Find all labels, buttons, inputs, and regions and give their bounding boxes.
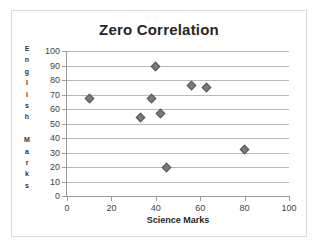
data-point-marker — [202, 82, 212, 92]
y-axis-tick — [62, 95, 67, 96]
y-axis-title-letter: E — [20, 43, 34, 54]
gridline — [67, 182, 289, 183]
y-axis-tick-label: 60 — [50, 104, 60, 114]
y-axis-title: EnglishMarks — [20, 43, 34, 191]
x-axis-tick-label: 100 — [281, 203, 296, 213]
y-axis-tick-label: 20 — [50, 162, 60, 172]
x-axis-tick-label: 0 — [64, 203, 69, 213]
x-axis-tick — [200, 196, 201, 201]
y-axis-tick-label: 70 — [50, 90, 60, 100]
y-axis-tick-label: 0 — [55, 191, 60, 201]
x-axis-tick-label: 40 — [151, 203, 161, 213]
x-axis-tick — [67, 196, 68, 201]
y-axis-title-letter: s — [20, 100, 34, 111]
x-axis-tick — [111, 196, 112, 201]
gridline — [67, 124, 289, 125]
y-axis-tick — [62, 124, 67, 125]
y-axis-tick — [62, 153, 67, 154]
gridline — [67, 153, 289, 154]
x-axis-tick-label: 20 — [106, 203, 116, 213]
gridline — [67, 167, 289, 168]
gridline — [67, 109, 289, 110]
chart-title: Zero Correlation — [12, 21, 306, 38]
gridline — [67, 80, 289, 81]
y-axis-tick — [62, 66, 67, 67]
y-axis-title-letter: l — [20, 77, 34, 88]
x-axis-tick-label: 80 — [240, 203, 250, 213]
y-axis-title-letter: a — [20, 146, 34, 157]
y-axis-title-word-gap — [20, 123, 34, 134]
gridline — [67, 138, 289, 139]
gridline — [67, 51, 289, 52]
y-axis-tick-label: 90 — [50, 61, 60, 71]
plot-frame: 0102030405060708090100020406080100 — [67, 51, 289, 196]
data-point-marker — [186, 81, 196, 91]
data-point-marker — [162, 162, 172, 172]
y-axis-tick-label: 100 — [45, 46, 60, 56]
y-axis-title-letter: M — [20, 134, 34, 145]
x-axis-tick — [245, 196, 246, 201]
data-point-marker — [151, 62, 161, 72]
y-axis-title-letter: i — [20, 89, 34, 100]
y-axis-title-letter: s — [20, 180, 34, 191]
chart-card: Zero Correlation EnglishMarks 0102030405… — [11, 10, 307, 237]
y-axis-title-letter: g — [20, 66, 34, 77]
x-axis-tick-label: 60 — [195, 203, 205, 213]
y-axis-tick-label: 50 — [50, 119, 60, 129]
x-axis-tick — [156, 196, 157, 201]
y-axis-title-letter: h — [20, 111, 34, 122]
y-axis-tick — [62, 182, 67, 183]
gridline — [67, 66, 289, 67]
y-axis-tick — [62, 109, 67, 110]
y-axis-title-letter: n — [20, 54, 34, 65]
gridline — [67, 95, 289, 96]
y-axis-tick — [62, 138, 67, 139]
y-axis-tick-label: 30 — [50, 148, 60, 158]
y-axis-tick-label: 80 — [50, 75, 60, 85]
x-axis-tick — [289, 196, 290, 201]
y-axis-title-letter: r — [20, 157, 34, 168]
x-axis-title: Science Marks — [67, 215, 289, 225]
y-axis-tick-label: 10 — [50, 177, 60, 187]
plot-area: 0102030405060708090100020406080100 — [67, 51, 289, 196]
x-axis-line — [66, 196, 289, 197]
y-axis-tick — [62, 80, 67, 81]
y-axis-tick — [62, 167, 67, 168]
y-axis-tick — [62, 51, 67, 52]
y-axis-title-letter: k — [20, 168, 34, 179]
data-point-marker — [135, 113, 145, 123]
y-axis-tick-label: 40 — [50, 133, 60, 143]
